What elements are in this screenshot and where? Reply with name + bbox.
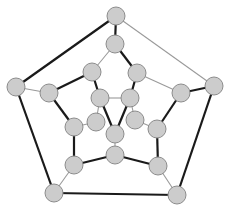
- node-I3: [106, 125, 124, 143]
- node-M5: [106, 146, 124, 164]
- node-I1: [121, 89, 139, 107]
- node-O3: [45, 184, 63, 202]
- node-M1: [128, 64, 146, 82]
- edge-O0-O4: [16, 16, 116, 87]
- graph-nodes: [7, 7, 223, 204]
- edge-O3-O4: [16, 87, 54, 193]
- node-I2: [126, 111, 144, 129]
- node-M7: [65, 118, 83, 136]
- node-O2: [168, 186, 186, 204]
- node-M4: [149, 157, 167, 175]
- node-M8: [40, 84, 58, 102]
- node-M2: [172, 84, 190, 102]
- dodecahedron-graph: [0, 0, 230, 211]
- node-M0: [106, 35, 124, 53]
- node-M3: [148, 120, 166, 138]
- edge-O2-O3: [54, 193, 177, 195]
- node-O4: [7, 78, 25, 96]
- node-I0: [91, 89, 109, 107]
- node-M6: [65, 156, 83, 174]
- node-M9: [83, 63, 101, 81]
- node-O0: [107, 7, 125, 25]
- node-O1: [205, 77, 223, 95]
- node-I4: [87, 113, 105, 131]
